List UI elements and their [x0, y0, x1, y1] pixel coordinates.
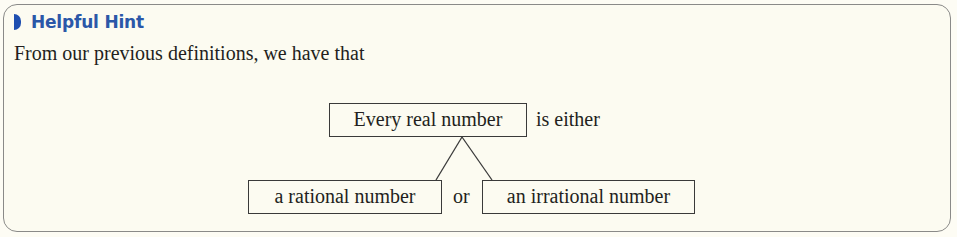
- connector-word-or: or: [453, 181, 470, 211]
- child-box-rational-number: a rational number: [248, 180, 442, 214]
- intro-text: From our previous definitions, we have t…: [14, 42, 365, 65]
- root-box-every-real-number: Every real number: [329, 103, 527, 137]
- half-circle-bullet-icon: [14, 14, 21, 30]
- child-box-irrational-number: an irrational number: [482, 180, 695, 214]
- root-suffix-text: is either: [536, 104, 600, 134]
- hint-header: Helpful Hint: [14, 12, 144, 32]
- hint-title: Helpful Hint: [31, 12, 144, 32]
